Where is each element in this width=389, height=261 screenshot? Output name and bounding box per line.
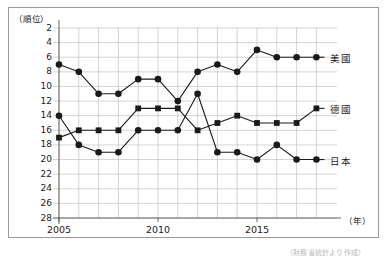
y-tick-label: 14 (30, 111, 52, 120)
data-point (135, 127, 142, 134)
y-tick-label: 6 (30, 53, 52, 62)
data-point (195, 127, 201, 133)
y-tick-label: 28 (30, 214, 52, 223)
series-2 (56, 105, 319, 140)
data-point (96, 127, 102, 133)
data-point (234, 69, 241, 76)
data-point (155, 127, 162, 134)
data-point (76, 142, 83, 149)
y-tick-label: 8 (30, 67, 52, 76)
data-point (293, 54, 300, 61)
y-tick-label: 22 (30, 170, 52, 179)
data-point (175, 105, 181, 111)
data-point (95, 149, 102, 156)
data-point (194, 69, 201, 76)
data-point (116, 127, 122, 133)
series-label-1: 美國 (330, 51, 351, 65)
data-point (214, 149, 221, 156)
data-point (274, 120, 280, 126)
y-tick-label: 24 (30, 184, 52, 193)
data-point (76, 127, 82, 133)
y-tick-label: 20 (30, 155, 52, 164)
x-tick-label: 2015 (237, 225, 277, 235)
data-point (135, 105, 141, 111)
x-axis-unit-label: （年） (344, 214, 370, 226)
data-point (294, 120, 300, 126)
data-point (254, 156, 261, 163)
chart-figure: （順位） （年） （財務省統計より作成） 美國德國日本2468101214161… (0, 0, 389, 261)
data-point (56, 61, 63, 68)
rank-line-chart (0, 0, 389, 261)
y-axis-unit-label: （順位） (14, 12, 49, 24)
data-point (56, 135, 62, 141)
data-point (274, 142, 281, 149)
series-1 (56, 47, 320, 105)
data-point (234, 149, 241, 156)
source-note: （財務省統計より作成） (286, 247, 365, 257)
data-point (155, 105, 161, 111)
y-tick-label: 18 (30, 140, 52, 149)
data-point (56, 112, 63, 119)
data-point (254, 120, 260, 126)
data-point (194, 90, 201, 97)
y-tick-label: 12 (30, 97, 52, 106)
y-tick-label: 26 (30, 199, 52, 208)
data-point (214, 61, 221, 68)
y-tick-label: 10 (30, 82, 52, 91)
series-label-2: 德國 (330, 102, 351, 116)
data-point (115, 90, 122, 97)
data-point (155, 76, 162, 83)
x-tick-label: 2005 (39, 225, 79, 235)
data-point (274, 54, 281, 61)
data-point (135, 76, 142, 83)
y-tick-label: 2 (30, 24, 52, 33)
data-point (215, 120, 221, 126)
data-point (234, 113, 240, 119)
x-tick-label: 2010 (138, 225, 178, 235)
data-point (293, 156, 300, 163)
data-point (76, 69, 83, 76)
y-tick-label: 16 (30, 126, 52, 135)
data-point (115, 149, 122, 156)
data-point (175, 98, 182, 105)
y-tick-label: 4 (30, 38, 52, 47)
data-point (175, 127, 182, 134)
series-label-3: 日本 (330, 154, 351, 168)
data-point (254, 47, 261, 54)
data-point (95, 90, 102, 97)
